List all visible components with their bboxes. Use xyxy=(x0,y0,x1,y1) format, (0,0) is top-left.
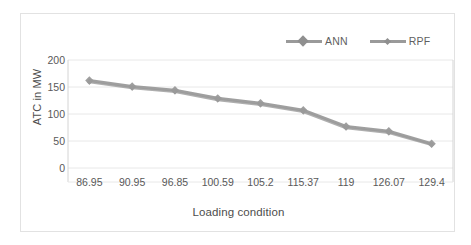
x-axis-title: Loading condition xyxy=(21,206,456,218)
x-tick-label: 96.85 xyxy=(152,177,198,188)
x-tick-label: 86.95 xyxy=(66,177,112,188)
plot-area xyxy=(68,60,453,168)
x-tick-label: 119 xyxy=(323,177,369,188)
y-tick-label: 50 xyxy=(29,136,65,147)
x-tick-label: 100.59 xyxy=(195,177,241,188)
x-tick-label: 105.2 xyxy=(238,177,284,188)
legend-entry-rpf[interactable]: RPF xyxy=(370,35,431,47)
y-axis-tick-labels: 200150100500 xyxy=(29,54,65,174)
y-tick-label: 200 xyxy=(29,55,65,66)
x-axis-tick-labels: 86.9590.9596.85100.59105.2115.37119126.0… xyxy=(68,177,453,195)
x-tick-label: 129.4 xyxy=(409,177,455,188)
chart-legend: ANN RPF xyxy=(286,32,471,50)
series-rpf xyxy=(87,80,434,148)
x-tick-label: 126.07 xyxy=(366,177,412,188)
y-tick-label: 100 xyxy=(29,109,65,120)
line-chart-svg xyxy=(68,60,453,168)
diamond-marker-icon xyxy=(370,35,406,47)
x-tick-label: 115.37 xyxy=(280,177,326,188)
chart-frame: ANN RPF ATC in MW 200150100500 86.9590.9… xyxy=(20,13,455,232)
x-tick-label: 90.95 xyxy=(109,177,155,188)
diamond-marker-icon xyxy=(286,35,322,47)
legend-label-rpf: RPF xyxy=(409,35,431,47)
legend-label-ann: ANN xyxy=(325,35,348,47)
series-line xyxy=(89,82,431,145)
y-tick-label: 150 xyxy=(29,82,65,93)
legend-entry-ann[interactable]: ANN xyxy=(286,35,348,47)
y-tick-label: 0 xyxy=(29,163,65,174)
